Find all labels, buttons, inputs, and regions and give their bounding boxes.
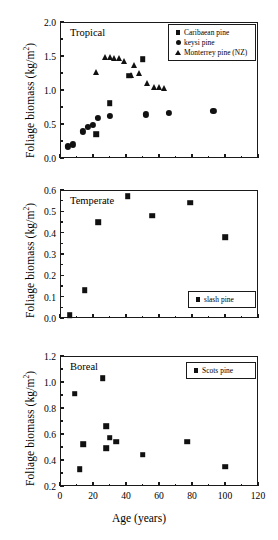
y-tick-mark — [60, 21, 64, 22]
x-minor-tick — [142, 316, 143, 319]
y-tick-label: 1.0 — [30, 85, 56, 96]
data-point — [140, 57, 146, 63]
y-tick-mark — [60, 381, 64, 382]
x-tick-label: 0 — [47, 490, 73, 501]
y-tick-label: 0.5 — [30, 119, 56, 130]
x-tick-mark — [92, 154, 93, 158]
x-tick-mark — [158, 314, 159, 318]
y-tick-label: 1.0 — [30, 377, 56, 388]
y-tick-label: 0.4 — [30, 227, 56, 238]
data-point — [95, 219, 101, 225]
y-minor-tick — [60, 446, 63, 447]
y-minor-tick — [60, 221, 63, 222]
y-tick-mark — [60, 317, 64, 318]
y-tick-mark — [60, 459, 64, 460]
y-minor-tick — [60, 472, 63, 473]
legend-marker-icon — [172, 40, 184, 45]
data-point — [121, 58, 127, 64]
data-point — [77, 466, 83, 472]
data-point — [93, 69, 99, 75]
data-point — [113, 439, 119, 445]
legend-item: Monterrey pine (NZ) — [172, 48, 251, 58]
y-tick-mark — [60, 189, 64, 190]
x-tick-label: 100 — [212, 490, 238, 501]
x-tick-mark — [125, 154, 126, 158]
x-tick-mark — [158, 154, 159, 158]
x-tick-label: 120 — [245, 490, 271, 501]
y-tick-mark — [60, 485, 64, 486]
y-tick-mark — [60, 253, 64, 254]
data-point — [150, 213, 156, 219]
y-minor-tick — [60, 38, 63, 39]
data-point — [222, 464, 228, 470]
data-point — [72, 391, 78, 397]
y-tick-label: 0.0 — [30, 153, 56, 164]
y-tick-label: 0.5 — [30, 206, 56, 217]
x-minor-tick — [109, 156, 110, 159]
y-minor-tick — [60, 243, 63, 244]
y-tick-label: 1.2 — [30, 351, 56, 362]
y-minor-tick — [60, 106, 63, 107]
x-tick-mark — [257, 154, 258, 158]
y-minor-tick — [60, 140, 63, 141]
legend-item: keysi pine — [172, 38, 251, 48]
legend-label: Caribaean pine — [184, 28, 229, 37]
legend-label: Monterrey pine (NZ) — [184, 48, 247, 57]
y-tick-mark — [60, 211, 64, 212]
panel-title-tropical: Tropical — [70, 27, 105, 38]
x-minor-tick — [208, 484, 209, 487]
y-tick-mark — [60, 89, 64, 90]
legend-item: slash pine — [192, 295, 251, 305]
data-point — [128, 72, 134, 78]
y-tick-label: 0.0 — [30, 313, 56, 324]
legend-marker-icon — [192, 297, 204, 302]
y-minor-tick — [60, 285, 63, 286]
legend-tropical: Caribaean pinekeysi pineMonterrey pine (… — [168, 24, 256, 61]
x-tick-mark — [92, 314, 93, 318]
y-tick-mark — [60, 296, 64, 297]
x-tick-mark — [59, 482, 60, 486]
x-tick-mark — [191, 154, 192, 158]
figure-container: Tropical Foliage biomass (kg/m2) 0.00.51… — [0, 0, 278, 540]
y-tick-mark — [60, 433, 64, 434]
y-tick-label: 0.6 — [30, 185, 56, 196]
y-tick-label: 0.6 — [30, 429, 56, 440]
legend-item: Scots pine — [190, 366, 251, 376]
legend-temperate: slash pine — [188, 291, 256, 308]
data-point — [107, 435, 113, 441]
x-minor-tick — [109, 316, 110, 319]
x-tick-mark — [257, 482, 258, 486]
y-minor-tick — [60, 72, 63, 73]
x-minor-tick — [241, 484, 242, 487]
data-point — [100, 375, 106, 381]
panel-title-boreal: Boreal — [70, 361, 98, 372]
data-point — [161, 85, 167, 91]
x-minor-tick — [241, 316, 242, 319]
x-minor-tick — [142, 156, 143, 159]
y-tick-mark — [60, 123, 64, 124]
data-point — [103, 423, 109, 429]
data-point — [67, 313, 73, 319]
y-tick-mark — [60, 355, 64, 356]
x-tick-mark — [224, 482, 225, 486]
x-tick-mark — [125, 314, 126, 318]
y-tick-mark — [60, 275, 64, 276]
data-point — [184, 439, 190, 445]
y-minor-tick — [60, 200, 63, 201]
y-tick-label: 0.3 — [30, 249, 56, 260]
x-tick-label: 40 — [113, 490, 139, 501]
data-point — [222, 234, 228, 240]
y-tick-label: 1.5 — [30, 51, 56, 62]
y-tick-mark — [60, 407, 64, 408]
data-point — [144, 80, 150, 86]
data-point — [107, 100, 113, 106]
legend-item: Caribaean pine — [172, 28, 251, 38]
x-tick-label: 60 — [146, 490, 172, 501]
data-point — [136, 70, 142, 76]
legend-label: keysi pine — [184, 38, 215, 47]
x-minor-tick — [109, 484, 110, 487]
x-tick-label: 20 — [80, 490, 106, 501]
legend-marker-icon — [172, 30, 184, 35]
data-point — [131, 62, 137, 68]
x-tick-mark — [224, 154, 225, 158]
